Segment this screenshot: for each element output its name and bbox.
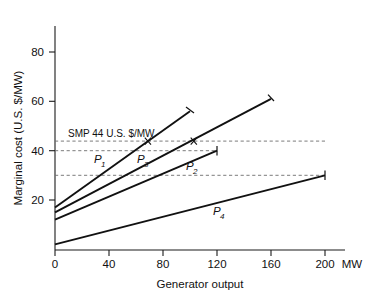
series-line-p1 <box>55 111 190 207</box>
x-axis-title: Generator output <box>157 278 245 290</box>
x-tick-label-160: 160 <box>261 258 280 270</box>
smp-annotation-label: SMP 44 U.S. $/MW <box>68 128 155 139</box>
marginal-cost-line-chart: 80 60 40 20 0 40 80 120 160 200 MW Gener… <box>0 0 379 296</box>
y-tick-label-60: 60 <box>31 95 44 107</box>
curve-label-p4-sub: 4 <box>220 212 225 221</box>
y-axis-title: Marginal cost (U.S. $/MW) <box>12 70 24 205</box>
series-line-p3 <box>55 99 271 213</box>
x-tick-label-0: 0 <box>52 258 58 270</box>
series-line-p4 <box>55 175 325 244</box>
x-tick-label-80: 80 <box>157 258 170 270</box>
y-tick-label-20: 20 <box>31 194 44 206</box>
y-tick-label-80: 80 <box>31 46 44 58</box>
x-tick-label-120: 120 <box>207 258 226 270</box>
x-axis-unit-label: MW <box>342 258 363 270</box>
chart-figure: 80 60 40 20 0 40 80 120 160 200 MW Gener… <box>0 0 379 296</box>
y-tick-label-40: 40 <box>31 145 44 157</box>
curve-label-p2: P 2 <box>186 160 198 176</box>
curve-label-p1-sub: 1 <box>101 160 105 169</box>
x-tick-label-40: 40 <box>103 258 116 270</box>
curve-label-p3-sub: 3 <box>144 160 149 169</box>
curve-label-p2-sub: 2 <box>192 167 198 176</box>
curve-label-p4: P 4 <box>213 205 225 221</box>
x-tick-label-200: 200 <box>315 258 334 270</box>
curve-label-p1: P 1 <box>94 153 105 169</box>
